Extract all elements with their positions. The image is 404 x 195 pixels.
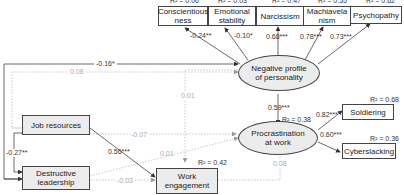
node-narcissism: Narcissism xyxy=(256,6,304,26)
r2-narcissism: R² = 0.47 xyxy=(272,0,301,5)
r2-work-engagement: R² = 0.42 xyxy=(198,159,227,167)
path-label-negative-to-engagement: 0.01 xyxy=(180,92,196,100)
node-label-line1: Conscientious xyxy=(158,7,208,16)
r2-psychopathy: R² = 0.62 xyxy=(366,0,395,5)
node-label-line2: engagement xyxy=(165,181,209,190)
path-label-procrastination-to-cyberslacking: 0.60*** xyxy=(320,131,342,139)
r2-soldiering: R² = 0.68 xyxy=(370,96,399,104)
node-label-line2: nism xyxy=(307,16,347,25)
node-procrastination: Procrastination at work xyxy=(238,121,318,155)
node-label-line1: Destructive xyxy=(36,169,76,178)
path-label-resources-to-negative: 0.08 xyxy=(68,68,86,76)
path-label-procrastination-to-soldiering: 0.82*** xyxy=(316,111,338,119)
r2-machiavellianism: R² = 0.55 xyxy=(318,0,347,5)
node-negative-profile: Negative profile of personality xyxy=(238,55,320,91)
path-label-leadership-to-procrastination: 0.01 xyxy=(160,150,174,158)
node-cyberslacking: Cyberslacking xyxy=(342,143,396,159)
path-label-emotional-stability: -0.10* xyxy=(234,32,253,40)
node-label: Psychopathy xyxy=(353,11,399,20)
r2-emotional-stability: R² = 0.03 xyxy=(218,0,247,5)
node-label-line1: Machiavela xyxy=(307,7,347,16)
node-label-line1: Procrastination xyxy=(251,129,304,138)
path-label-leadership-to-negative: -0.16* xyxy=(94,60,117,68)
path-label-machiavellianism: 0.78*** xyxy=(300,33,322,41)
node-work-engagement: Work engagement xyxy=(156,168,218,194)
node-label-line2: stability xyxy=(214,16,250,25)
node-label: Narcissism xyxy=(260,12,299,21)
r2-conscientiousness: R² = 0.06 xyxy=(170,0,199,5)
path-label-leadership-to-engagement: -0.03 xyxy=(116,177,134,185)
path-label-neg-to-procrastination: 0.59*** xyxy=(268,104,290,112)
node-conscientiousness: Conscientious ness xyxy=(158,6,208,26)
node-label-line2: of personality xyxy=(251,73,307,82)
node-soldiering: Soldiering xyxy=(342,104,394,120)
node-label-line1: Work xyxy=(165,172,209,181)
path-label-conscientiousness: -0.24** xyxy=(190,32,211,40)
node-job-resources: Job resources xyxy=(22,115,90,135)
node-label-line2: leadership xyxy=(36,178,76,187)
node-label: Job resources xyxy=(31,121,81,130)
node-machiavellianism: Machiavela nism xyxy=(303,6,351,26)
path-label-narcissism: 0.68*** xyxy=(266,33,288,41)
path-label-resources-leadership-corr: -0.27** xyxy=(6,149,27,157)
node-label-line1: Emotional xyxy=(214,7,250,16)
path-label-psychopathy: 0.73*** xyxy=(330,33,352,41)
node-emotional-stability: Emotional stability xyxy=(208,6,256,26)
node-label: Cyberslacking xyxy=(344,147,394,156)
path-label-resources-to-procrastination: -0.07 xyxy=(130,131,148,139)
path-label-resources-to-engagement: 0.56*** xyxy=(108,148,130,156)
node-label: Soldiering xyxy=(350,108,386,117)
r2-cyberslacking: R² = 0.36 xyxy=(370,135,399,143)
node-label-line2: at work xyxy=(251,138,304,147)
node-psychopathy: Psychopathy xyxy=(350,6,402,24)
node-label-line2: ness xyxy=(158,16,208,25)
node-destructive-leadership: Destructive leadership xyxy=(22,166,90,190)
node-label-line1: Negative profile xyxy=(251,64,307,73)
path-label-engagement-to-procrastination: 0.08 xyxy=(272,160,288,168)
sem-path-diagram: R² = 0.06 Conscientious ness R² = 0.03 E… xyxy=(0,0,404,195)
